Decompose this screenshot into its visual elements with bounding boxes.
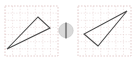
- left-panel: [5, 6, 58, 56]
- reflection-diagram: [0, 0, 134, 62]
- diagram-canvas: [0, 0, 134, 62]
- triangle-reflected: [84, 11, 127, 46]
- left-panel-frame: [5, 6, 58, 56]
- right-panel: [78, 6, 131, 56]
- triangle-original: [7, 17, 50, 49]
- mirror-axis-widget[interactable]: [59, 23, 73, 39]
- left-panel-grid: [5, 6, 58, 56]
